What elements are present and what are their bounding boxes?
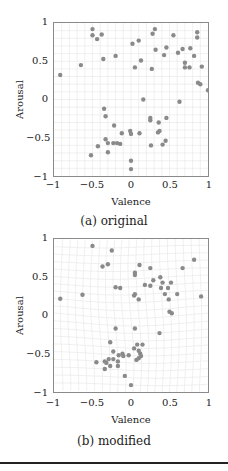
data-point	[135, 342, 139, 346]
data-point	[129, 383, 133, 387]
data-point	[134, 358, 138, 362]
ytick: −1	[26, 388, 48, 398]
data-point	[58, 297, 62, 301]
data-point	[180, 266, 184, 270]
data-point	[159, 286, 163, 290]
xtick: 0.5	[155, 398, 185, 408]
data-point	[106, 262, 110, 266]
ytick: 0.5	[26, 272, 48, 282]
data-point	[160, 280, 164, 284]
data-point	[199, 294, 203, 298]
data-point	[103, 367, 107, 371]
xtick: 1	[194, 398, 224, 408]
ytick: −0.5	[26, 349, 48, 359]
ytick: 0	[26, 310, 48, 320]
x-axis-label: Valence	[53, 414, 209, 425]
data-point	[167, 297, 171, 301]
xtick: −1	[38, 398, 68, 408]
data-point	[133, 326, 137, 330]
data-point	[148, 284, 152, 288]
ytick: 1	[26, 233, 48, 243]
data-point	[151, 278, 155, 282]
data-point	[117, 353, 121, 357]
data-point	[137, 297, 141, 301]
data-point	[140, 342, 144, 346]
data-point	[103, 359, 107, 363]
data-point	[121, 354, 125, 358]
data-point	[94, 360, 98, 364]
data-point	[133, 292, 137, 296]
data-point	[116, 359, 120, 363]
data-point	[116, 364, 120, 368]
data-point	[113, 285, 117, 289]
data-point	[133, 273, 137, 277]
caption-b: (b) modified	[0, 434, 228, 448]
data-point	[157, 331, 161, 335]
data-point	[163, 292, 167, 296]
data-point	[111, 357, 115, 361]
data-point	[107, 357, 111, 361]
data-point	[175, 292, 179, 296]
data-point	[108, 340, 112, 344]
data-point	[127, 353, 131, 357]
xtick: 0	[116, 398, 146, 408]
data-point	[166, 286, 170, 290]
data-point	[118, 286, 122, 290]
data-point	[108, 364, 112, 368]
data-point	[148, 266, 152, 270]
xtick: −0.5	[77, 398, 107, 408]
data-point	[123, 374, 127, 378]
data-point	[110, 248, 114, 252]
data-point	[192, 258, 196, 262]
data-point	[170, 311, 174, 315]
data-point	[137, 263, 141, 267]
data-point	[90, 244, 94, 248]
data-point	[111, 349, 115, 353]
horizontal-rule	[0, 462, 228, 464]
data-point	[80, 293, 84, 297]
scatter-plot-modified	[53, 238, 209, 393]
data-point	[100, 264, 104, 268]
panel-b: 1 0.5 0 −0.5 −1 −1 −0.5 0 0.5 1 Valence …	[0, 0, 228, 460]
data-point	[169, 280, 173, 284]
y-axis-label: Arousal	[14, 286, 25, 346]
data-point	[132, 346, 136, 350]
data-point	[158, 275, 162, 279]
data-point	[113, 326, 117, 330]
data-point	[143, 283, 147, 287]
